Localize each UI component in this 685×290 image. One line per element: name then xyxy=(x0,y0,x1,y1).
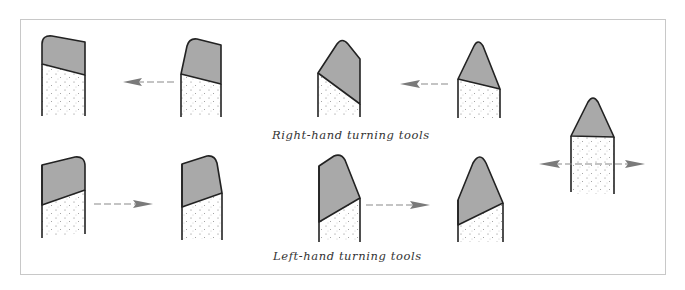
feed-arrow-left-2 xyxy=(400,80,448,88)
feed-arrow-left-1 xyxy=(123,78,174,86)
turning-tools-diagram xyxy=(0,0,685,290)
caption-right-hand-tools: Right-hand turning tools xyxy=(272,128,430,142)
rh-tool-angled-point xyxy=(318,41,360,118)
caption-left-hand-tools: Left-hand turning tools xyxy=(273,249,422,263)
neutral-tool-round-nose xyxy=(571,98,614,194)
rh-tool-square-nose xyxy=(42,36,85,116)
feed-arrow-right-2 xyxy=(366,201,430,209)
rh-tool-pointed xyxy=(458,42,500,118)
lh-tool-pointed xyxy=(458,157,503,242)
rh-tool-bevel-nose xyxy=(181,39,221,117)
lh-tool-angled-point xyxy=(319,155,360,242)
lh-tool-square-nose xyxy=(42,157,85,238)
feed-arrow-right-1 xyxy=(94,200,153,208)
lh-tool-bevel-nose xyxy=(182,156,222,240)
